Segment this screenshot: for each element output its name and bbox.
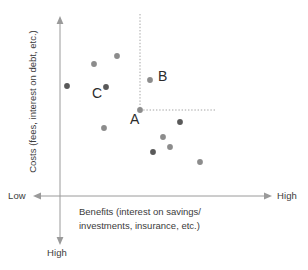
y-axis-high-label: High (47, 247, 67, 258)
y-axis-down-arrow-icon (57, 237, 64, 245)
y-axis (57, 16, 64, 245)
x-axis-title: Benefits (interest on savings/ investmen… (79, 205, 239, 232)
data-point-b (147, 77, 153, 83)
data-point (101, 125, 107, 131)
x-axis-high-label: High (277, 190, 297, 201)
data-point-c (103, 84, 109, 90)
x-axis (33, 193, 272, 200)
point-label-c: C (92, 86, 102, 100)
data-point (197, 159, 203, 165)
x-axis-left-arrow-icon (33, 193, 41, 200)
cost-benefit-scatter-chart: Low High High Costs (fees, interest on d… (0, 0, 308, 270)
scatter-points (64, 53, 203, 165)
data-point (64, 83, 70, 89)
y-axis-title: Costs (fees, interest on debt, etc.) (27, 14, 38, 190)
data-point (177, 119, 183, 125)
data-point (167, 144, 173, 150)
point-label-b: B (158, 69, 167, 83)
point-label-a: A (130, 112, 139, 126)
data-point (91, 61, 97, 67)
data-point (114, 53, 120, 59)
data-point (160, 134, 166, 140)
y-axis-up-arrow-icon (57, 16, 64, 24)
guide-lines (140, 14, 215, 110)
data-point (150, 149, 156, 155)
x-axis-title-line-2: investments, insurance, etc.) (79, 219, 239, 233)
x-axis-right-arrow-icon (264, 193, 272, 200)
x-axis-low-label: Low (8, 190, 26, 201)
x-axis-title-line-1: Benefits (interest on savings/ (79, 205, 239, 219)
